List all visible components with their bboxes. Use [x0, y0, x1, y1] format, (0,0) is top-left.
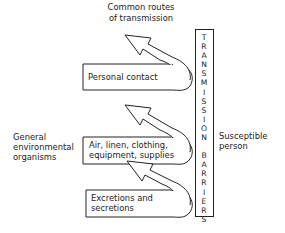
route-label-air-linen: Air, linen, clothing, equipment, supplie… [89, 140, 174, 160]
route-label-excretions: Excretions and secretions [91, 193, 153, 213]
susceptible-person-label: Susceptible person [219, 131, 267, 151]
route-label-personal-contact: Personal contact [88, 72, 158, 82]
general-environmental-organisms-label: General environmental organisms [13, 132, 74, 162]
transmission-barriers-label: T R A N S M I S S I O N B A R R I E R S [196, 33, 212, 224]
